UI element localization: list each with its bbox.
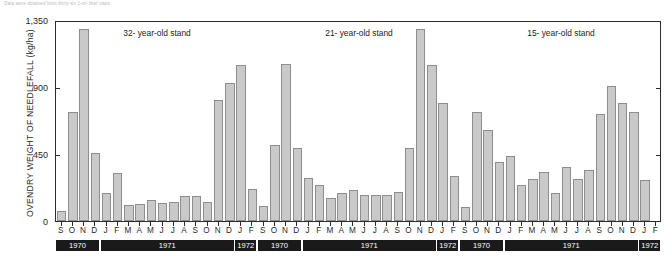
month-label: D xyxy=(91,226,97,235)
year-label-1971: 1971 xyxy=(303,240,436,251)
bar xyxy=(483,130,492,221)
month-label: O xyxy=(473,226,479,235)
bar xyxy=(248,189,257,221)
month-label: S xyxy=(58,226,63,235)
month-label: M xyxy=(349,226,356,235)
bar xyxy=(450,176,459,221)
bar xyxy=(528,179,537,221)
month-label: N xyxy=(282,226,288,235)
bar xyxy=(68,112,77,221)
panel-15-year-old stand: 15- year-old stand xyxy=(460,22,662,221)
month-label: J xyxy=(238,226,242,235)
month-label: A xyxy=(136,226,141,235)
month-label: J xyxy=(103,226,107,235)
bar xyxy=(360,195,369,221)
bar xyxy=(304,178,313,221)
bar xyxy=(315,185,324,221)
bar xyxy=(113,173,122,221)
bar xyxy=(259,206,268,221)
bar xyxy=(349,190,358,221)
y-tick-label-1350: 1,350 xyxy=(25,16,48,26)
bar xyxy=(270,145,279,221)
bar xyxy=(506,156,515,222)
panel-title: 15- year-old stand xyxy=(460,28,662,38)
y-tick-mark-right-900 xyxy=(656,88,661,89)
bar xyxy=(618,103,627,221)
month-label: J xyxy=(362,226,366,235)
bar xyxy=(281,64,290,221)
y-axis-ticks: 04509001,350 xyxy=(0,0,48,270)
month-label: N xyxy=(484,226,490,235)
y-tick-mark-right-450 xyxy=(656,155,661,156)
month-label: O xyxy=(203,226,209,235)
month-label: A xyxy=(181,226,186,235)
month-label: A xyxy=(338,226,343,235)
bar xyxy=(427,65,436,221)
month-label: D xyxy=(293,226,299,235)
panel-title: 21- year-old stand xyxy=(258,28,460,38)
bar xyxy=(517,185,526,221)
bar xyxy=(584,170,593,221)
bar xyxy=(147,200,156,221)
month-label: J xyxy=(305,226,309,235)
bar xyxy=(192,196,201,221)
plot-frame: 32- year-old stand21- year-old stand15- … xyxy=(55,21,661,222)
bar xyxy=(158,203,167,221)
y-tick-label-450: 450 xyxy=(33,150,48,160)
month-axis: SONDJFMAMJJASONDJFSONDJFMAMJJASONDJFSOND… xyxy=(55,222,661,238)
bar xyxy=(596,114,605,221)
year-label-1970: 1970 xyxy=(56,240,99,251)
year-label-1972: 1972 xyxy=(235,240,256,251)
year-label-1972: 1972 xyxy=(437,240,458,251)
month-label: S xyxy=(395,226,400,235)
month-label: D xyxy=(630,226,636,235)
month-label: O xyxy=(271,226,277,235)
month-label: J xyxy=(642,226,646,235)
bar xyxy=(472,112,481,221)
year-label-1972: 1972 xyxy=(639,240,660,251)
month-label: F xyxy=(316,226,321,235)
bar xyxy=(180,196,189,221)
bar xyxy=(57,211,66,221)
month-label: J xyxy=(373,226,377,235)
month-label: A xyxy=(540,226,545,235)
bar xyxy=(236,65,245,221)
month-label: N xyxy=(619,226,625,235)
month-label: F xyxy=(653,226,658,235)
month-label: M xyxy=(551,226,558,235)
month-label: F xyxy=(451,226,456,235)
month-label: N xyxy=(80,226,86,235)
bar xyxy=(629,112,638,221)
month-label: F xyxy=(518,226,523,235)
year-label-1971: 1971 xyxy=(101,240,234,251)
y-tick-mark-900 xyxy=(55,88,60,89)
month-label: M xyxy=(327,226,334,235)
y-tick-label-900: 900 xyxy=(33,83,48,93)
bar xyxy=(135,204,144,221)
bar xyxy=(416,29,425,221)
bar xyxy=(124,205,133,221)
month-label: N xyxy=(215,226,221,235)
bar xyxy=(382,195,391,221)
bar xyxy=(573,179,582,221)
panel-21-year-old stand: 21- year-old stand xyxy=(258,22,460,221)
bar xyxy=(293,148,302,221)
bar xyxy=(405,148,414,221)
figure-caption: Data were obtained from thirty-six 1-m² … xyxy=(4,1,424,7)
month-label: S xyxy=(260,226,265,235)
month-label: D xyxy=(495,226,501,235)
month-label: S xyxy=(462,226,467,235)
month-label: F xyxy=(249,226,254,235)
bar xyxy=(607,86,616,221)
month-label: N xyxy=(417,226,423,235)
month-label: D xyxy=(226,226,232,235)
bar xyxy=(562,167,571,221)
bar xyxy=(225,83,234,221)
month-label: A xyxy=(383,226,388,235)
bar xyxy=(337,193,346,221)
bar xyxy=(169,202,178,221)
y-tick-mark-450 xyxy=(55,155,60,156)
month-label: M xyxy=(125,226,132,235)
bar xyxy=(394,192,403,221)
month-label: O xyxy=(607,226,613,235)
